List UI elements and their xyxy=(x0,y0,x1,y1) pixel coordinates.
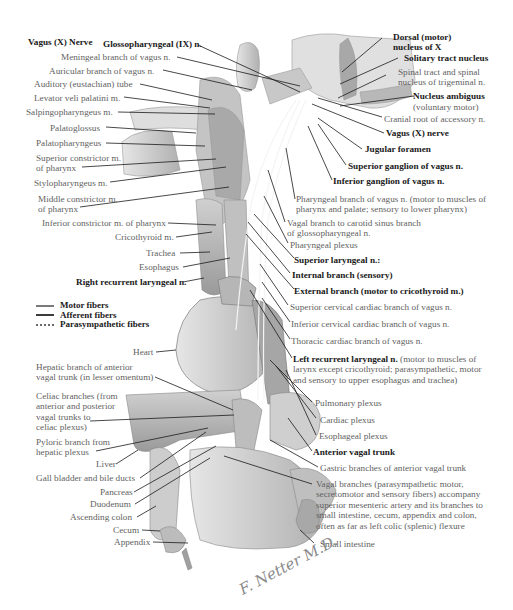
label-left-recurrent-laryngeal: Left recurrent laryngeal n. (motor to mu… xyxy=(293,354,482,385)
label-cranial-root-accessory: Cranial root of accessory n. xyxy=(384,114,485,124)
fiber-legend: Motor fibers Afferent fibers Parasympath… xyxy=(36,301,149,330)
label-vagus-nerve: Vagus (X) nerve xyxy=(386,128,449,138)
label-salpingopharyngeus: Salpingopharyngeus m. xyxy=(26,107,113,117)
label-superior-cervical-cardiac: Superior cervical cardiac branch of vagu… xyxy=(290,302,452,312)
motor-fiber-swatch xyxy=(36,305,54,307)
label-auricular-branch: Auricular branch of vagus n. xyxy=(49,66,154,76)
label-inferior-cervical-cardiac: Inferior cervical cardiac branch of vagu… xyxy=(291,319,449,329)
label-dorsal-motor-nucleus: Dorsal (motor)nucleus of X xyxy=(393,32,451,53)
label-internal-branch: Internal branch (sensory) xyxy=(292,270,393,280)
label-superior-laryngeal: Superior laryngeal n.: xyxy=(294,255,380,265)
abdomen-upper xyxy=(126,390,320,451)
diagram-title: Vagus (X) Nerve xyxy=(28,37,92,47)
label-pharyngeal-branch: Pharyngeal branch of vagus n. (motor to … xyxy=(296,194,486,215)
label-heart: Heart xyxy=(133,347,153,357)
label-right-recurrent-laryngeal: Right recurrent laryngeal n. xyxy=(76,277,186,287)
label-external-branch: External branch (motor to cricothyroid m… xyxy=(294,286,464,296)
legend-parasympathetic: Parasympathetic fibers xyxy=(36,320,149,330)
label-pulmonary-plexus: Pulmonary plexus xyxy=(315,398,382,408)
label-liver: Liver xyxy=(96,459,116,469)
label-celiac-branches: Celiac branches (fromanterior and poster… xyxy=(36,391,118,433)
label-glossopharyngeal: Glossopharyngeal (IX) n. xyxy=(103,39,202,49)
label-inferior-ganglion: Inferior ganglion of vagus n. xyxy=(333,176,444,186)
label-auditory-tube: Auditory (eustachian) tube xyxy=(34,79,132,89)
label-cardiac-plexus: Cardiac plexus xyxy=(320,415,375,425)
label-trachea: Trachea xyxy=(146,248,175,258)
label-superior-constrictor: Superior constrictor m.of pharynx xyxy=(36,153,121,174)
label-cecum: Cecum xyxy=(113,525,139,535)
label-voluntary-motor: (voluntary motor) xyxy=(413,102,479,112)
afferent-fiber-swatch xyxy=(36,314,54,316)
head-region xyxy=(236,34,415,108)
label-pancreas: Pancreas xyxy=(100,487,133,497)
label-superior-ganglion: Superior ganglion of vagus n. xyxy=(348,161,463,171)
label-gastric-branches: Gastric branches of anterior vagal trunk xyxy=(320,463,466,473)
label-vagal-branches: Vagal branches (parasympathetic motor,se… xyxy=(316,479,483,531)
label-duodenum: Duodenum xyxy=(90,499,131,509)
label-pyloric-branch: Pyloric branch fromhepatic plexus xyxy=(36,437,110,458)
label-solitary-tract-nucleus: Solitary tract nucleus xyxy=(404,53,488,63)
label-anterior-vagal-trunk: Anterior vagal trunk xyxy=(313,447,395,457)
label-hepatic-branch: Hepatic branch of anteriorvagal trunk (i… xyxy=(36,362,153,383)
label-spinal-trigeminal: Spinal tract and spinalnucleus of trigem… xyxy=(398,67,485,88)
label-pharyngeal-plexus: Pharyngeal plexus xyxy=(290,240,358,250)
label-palatoglossus: Palatoglossus xyxy=(50,123,100,133)
label-inferior-constrictor: Inferior constrictor m. of pharynx xyxy=(42,218,166,228)
label-esophageal-plexus: Esophageal plexus xyxy=(319,431,388,441)
label-levator-veli-palatini: Levator veli palatini m. xyxy=(34,93,120,103)
label-thoracic-cardiac: Thoracic cardiac branch of vagus n. xyxy=(291,336,423,346)
label-cricothyroid: Cricothyroid m. xyxy=(115,232,174,242)
label-gall-bladder: Gall bladder and bile ducts xyxy=(36,473,135,483)
label-appendix: Appendix xyxy=(114,537,150,547)
parasympathetic-fiber-swatch xyxy=(36,324,54,326)
label-stylopharyngeus: Stylopharyngeus m. xyxy=(34,178,108,188)
label-nucleus-ambiguus: Nucleus ambiguus xyxy=(413,91,485,101)
label-esophagus: Esophagus xyxy=(139,262,179,272)
label-carotid-sinus-branch: Vagal branch to carotid sinus branchof g… xyxy=(287,218,421,239)
label-middle-constrictor: Middle constrictor m.of pharynx xyxy=(38,194,118,215)
label-meningeal-branch: Meningeal branch of vagus n. xyxy=(61,52,170,62)
label-palatopharyngeus: Palatopharyngeus xyxy=(36,138,101,148)
label-jugular-foramen: Jugular foramen xyxy=(365,144,431,154)
heart xyxy=(176,276,290,404)
label-ascending-colon: Ascending colon xyxy=(70,512,132,522)
